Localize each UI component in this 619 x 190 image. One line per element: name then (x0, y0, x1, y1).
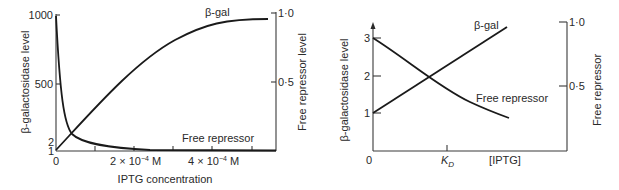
right-y-axis-label: β-galactosidase level (338, 39, 350, 142)
left-chart: 1000 500 2 1 1·0 0·5 0 2 × 10−4 M 4 × 10… (19, 6, 308, 185)
left-ytick-1000: 1000 (29, 9, 53, 21)
left-xtick-0: 0 (53, 155, 59, 167)
right-ytick-1: 1 (364, 107, 370, 119)
right-xtick-iptg: [IPTG] (489, 154, 521, 166)
left-x-axis-label: IPTG concentration (118, 173, 213, 185)
right-ytick-2: 2 (364, 70, 370, 82)
right-ytick-3: 3 (364, 32, 370, 44)
right-chart: 3 2 1 1·0 0·5 0 KD [IPTG] β-galactosidas… (338, 16, 603, 169)
right-xtick-kd: KD (441, 154, 454, 169)
right-repressor-annotation: Free repressor (476, 92, 548, 104)
right-y2tick-0-5: 0·5 (569, 80, 585, 92)
left-y2tick-0-5: 0·5 (278, 76, 294, 88)
left-ytick-500: 500 (35, 78, 53, 90)
figure: 1000 500 2 1 1·0 0·5 0 2 × 10−4 M 4 × 10… (0, 0, 619, 190)
right-repressor-curve (373, 38, 509, 118)
left-y2tick-1-0: 1·0 (278, 7, 294, 19)
left-xtick-2e-4: 2 × 10−4 M (110, 155, 161, 167)
left-bgal-curve (56, 19, 268, 150)
left-repressor-curve (56, 16, 276, 151)
y-axis-arrow-icon (371, 22, 376, 29)
right-y2tick-1-0: 1·0 (569, 16, 585, 28)
left-y-axis-label: β-galactosidase level (19, 31, 31, 134)
right-y2-axis-label: Free repressor (591, 54, 603, 126)
left-bgal-annotation: β-gal (205, 6, 230, 18)
right-bgal-annotation: β-gal (474, 19, 499, 31)
left-y2-axis-label: Free repressor level (296, 33, 308, 131)
left-xtick-4e-4: 4 × 10−4 M (188, 155, 239, 167)
left-repressor-annotation: Free repressor (182, 132, 254, 144)
right-xtick-0: 0 (366, 154, 372, 166)
